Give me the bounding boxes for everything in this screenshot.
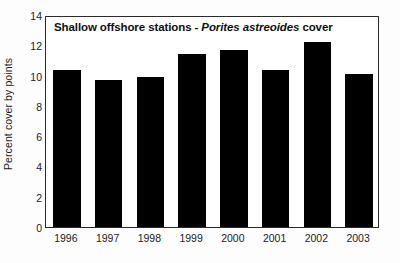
y-tick-label: 8 [18,101,42,113]
x-tick-label: 1998 [138,232,161,244]
x-tick-label: 1997 [96,232,119,244]
y-tick-label: 10 [18,71,42,83]
x-tick-label: 2003 [346,232,369,244]
x-tick-label: 2001 [263,232,286,244]
x-tick-label: 2000 [221,232,244,244]
bar [220,50,248,227]
bar [53,70,81,227]
y-tick-label: 14 [18,10,42,22]
bar [178,54,206,227]
x-tick-label: 1996 [54,232,77,244]
x-axis-tick-labels: 19961997199819992000200120022003 [45,232,379,252]
chart-figure: Percent cover by points 02468101214 Shal… [0,0,400,263]
y-tick-label: 2 [18,192,42,204]
bar [137,77,165,227]
plot-area: Shallow offshore stations - Porites astr… [45,16,379,228]
bar [95,80,123,227]
y-tick-label: 12 [18,40,42,52]
bar [304,42,332,227]
y-tick-label: 6 [18,131,42,143]
y-tick-label: 4 [18,161,42,173]
x-tick-label: 2002 [305,232,328,244]
y-axis-title: Percent cover by points [0,0,16,228]
y-tick-label: 0 [18,222,42,234]
x-tick-label: 1999 [179,232,202,244]
bar [345,74,373,227]
y-axis-tick-labels: 02468101214 [18,0,42,263]
bar [262,70,290,227]
bar-series [46,17,378,227]
